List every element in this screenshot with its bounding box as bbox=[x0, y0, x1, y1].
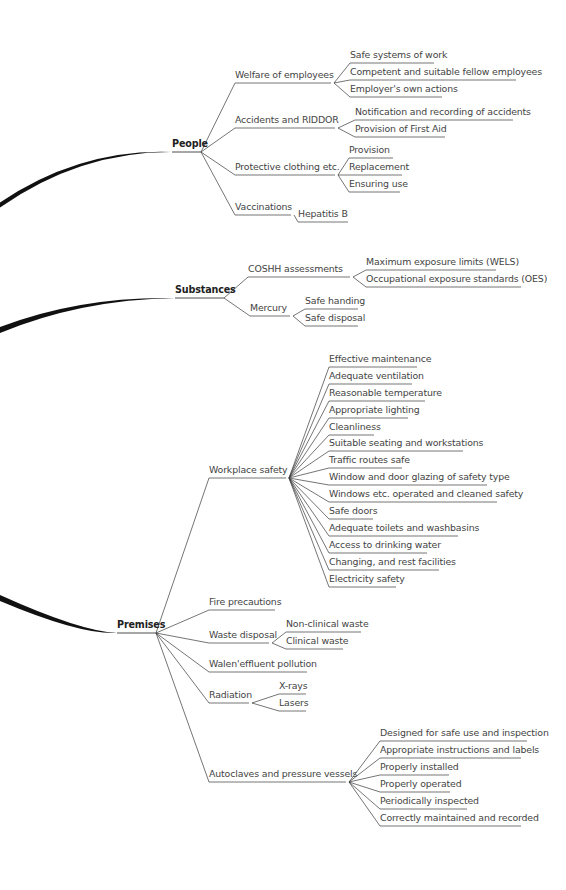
leaf-node: Ensuring use bbox=[349, 178, 408, 192]
leaf-node: Adequate ventilation bbox=[329, 370, 424, 384]
leaf-node: Hepatitis B bbox=[298, 208, 348, 222]
leaf-node: Competent and suitable fellow employees bbox=[350, 66, 542, 80]
main-branch-premises: Premises bbox=[117, 619, 165, 633]
main-branch-people: People bbox=[172, 138, 208, 152]
connector-line bbox=[156, 633, 209, 643]
leaf-node: Suitable seating and workstations bbox=[329, 437, 483, 451]
mind-map-canvas: PeopleWelfare of employeesSafe systems o… bbox=[0, 0, 566, 890]
connector-line bbox=[293, 316, 305, 326]
connector-line bbox=[338, 128, 355, 137]
connector-line bbox=[353, 277, 366, 287]
connector-line bbox=[349, 782, 380, 792]
connector-line bbox=[289, 384, 329, 478]
leaf-node: Appropriate lighting bbox=[329, 404, 420, 418]
leaf-node: Clinical waste bbox=[286, 635, 348, 649]
connector-line bbox=[289, 478, 329, 536]
leaf-node: Correctly maintained and recorded bbox=[380, 812, 539, 826]
leaf-node: Properly installed bbox=[380, 761, 459, 775]
leaf-node: Appropriate instructions and labels bbox=[380, 744, 539, 758]
sub-branch: Protective clothing etc. bbox=[235, 161, 340, 175]
connector-line bbox=[224, 298, 250, 316]
leaf-node: Provision of First Aid bbox=[355, 123, 447, 137]
connector-line bbox=[349, 782, 380, 826]
sub-branch: Accidents and RIDDOR bbox=[235, 114, 339, 128]
connector-line bbox=[289, 435, 329, 478]
connector-line bbox=[334, 83, 350, 97]
leaf-node: Access to drinking water bbox=[329, 539, 441, 553]
connector-line bbox=[156, 633, 209, 672]
connector-line bbox=[156, 478, 209, 633]
sub-branch: Walen'effluent pollution bbox=[209, 658, 317, 672]
leaf-node: Reasonable temperature bbox=[329, 387, 442, 401]
sub-branch: COSHH assessments bbox=[248, 263, 343, 277]
connector-line bbox=[353, 270, 366, 277]
leaf-node: Occupational exposure standards (OES) bbox=[366, 273, 547, 287]
connector-line bbox=[289, 478, 329, 587]
trunk-branch-1 bbox=[0, 298, 175, 333]
leaf-node: Safe systems of work bbox=[350, 49, 447, 63]
connector-line bbox=[349, 782, 380, 809]
connector-line bbox=[289, 367, 329, 478]
sub-branch: Waste disposal bbox=[209, 629, 277, 643]
leaf-node: Adequate toilets and washbasins bbox=[329, 522, 479, 536]
leaf-node: Replacement bbox=[349, 161, 409, 175]
connector-line bbox=[293, 309, 305, 316]
connector-line bbox=[252, 703, 279, 711]
main-branch-substances: Substances bbox=[175, 284, 236, 298]
leaf-node: Periodically inspected bbox=[380, 795, 479, 809]
leaf-node: Effective maintenance bbox=[329, 353, 431, 367]
sub-branch: Vaccinations bbox=[235, 201, 292, 215]
connector-line bbox=[201, 152, 235, 215]
connector-line bbox=[201, 152, 235, 175]
connector-line bbox=[289, 401, 329, 478]
connector-line bbox=[156, 633, 209, 703]
connector-line bbox=[334, 63, 350, 83]
connector-line bbox=[289, 478, 329, 553]
sub-branch: Workplace safety bbox=[209, 464, 287, 478]
leaf-node: Maximum exposure limits (WELS) bbox=[366, 256, 519, 270]
leaf-node: Safe disposal bbox=[305, 312, 365, 326]
connector-line bbox=[338, 175, 349, 192]
leaf-node: Notification and recording of accidents bbox=[355, 106, 531, 120]
leaf-node: Properly operated bbox=[380, 778, 461, 792]
connector-line bbox=[156, 633, 209, 782]
leaf-node: Employer's own actions bbox=[350, 83, 458, 97]
leaf-node: Designed for safe use and inspection bbox=[380, 727, 549, 741]
connector-line bbox=[338, 158, 349, 175]
connector-line bbox=[289, 478, 329, 570]
leaf-node: Windows etc. operated and cleaned safety bbox=[329, 488, 523, 502]
leaf-node: X-rays bbox=[279, 680, 307, 694]
leaf-node: Electricity safety bbox=[329, 573, 405, 587]
leaf-node: Cleanliness bbox=[329, 421, 381, 435]
leaf-node: Traffic routes safe bbox=[329, 454, 410, 468]
sub-branch: Radiation bbox=[209, 689, 252, 703]
connector-line bbox=[338, 120, 355, 128]
connector-line bbox=[252, 694, 279, 703]
leaf-node: Changing, and rest facilities bbox=[329, 556, 456, 570]
leaf-node: Provision bbox=[349, 144, 390, 158]
leaf-node: Non-clinical waste bbox=[286, 618, 369, 632]
leaf-node: Window and door glazing of safety type bbox=[329, 471, 510, 485]
sub-branch: Autoclaves and pressure vessels bbox=[209, 768, 357, 782]
sub-branch: Fire precautions bbox=[209, 596, 281, 610]
connector-line bbox=[289, 418, 329, 478]
sub-branch: Welfare of employees bbox=[235, 69, 334, 83]
sub-branch: Mercury bbox=[250, 302, 287, 316]
trunk-branch-0 bbox=[0, 152, 172, 208]
trunk-branch-2 bbox=[0, 595, 117, 633]
connector-line bbox=[272, 643, 286, 649]
leaf-node: Safe handing bbox=[305, 295, 365, 309]
leaf-node: Safe doors bbox=[329, 505, 377, 519]
leaf-node: Lasers bbox=[279, 697, 308, 711]
